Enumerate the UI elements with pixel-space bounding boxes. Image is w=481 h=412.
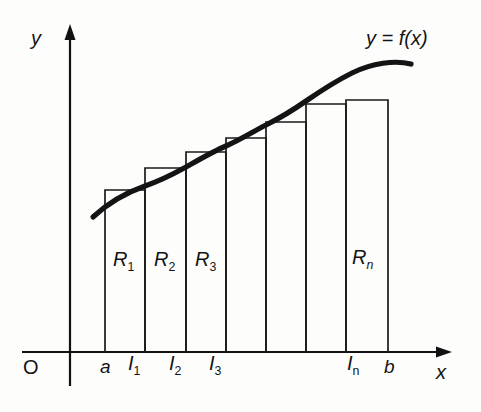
- curve-equation-label: y = f(x): [366, 28, 428, 48]
- region-label-Rn: Rn: [352, 247, 373, 271]
- interval-sub-In: n: [353, 364, 360, 378]
- riemann-rectangle-5: [266, 122, 306, 352]
- riemann-rectangle-6: [306, 104, 346, 352]
- x-axis-arrowhead: [436, 347, 452, 358]
- interval-label-I2: I2: [169, 353, 181, 377]
- upper-bound-label-b: b: [384, 357, 395, 376]
- origin-label: O: [23, 357, 39, 377]
- region-base-R1: R: [113, 248, 127, 270]
- region-base-Rn: R: [352, 246, 366, 268]
- figure-canvas: [0, 0, 481, 412]
- y-axis-arrowhead: [65, 24, 76, 40]
- y-axis-label: y: [31, 28, 41, 48]
- region-base-R3: R: [195, 248, 209, 270]
- region-base-R2: R: [154, 248, 168, 270]
- function-curve: [93, 62, 411, 217]
- riemann-rectangle-4: [226, 138, 266, 352]
- interval-sub-I3: 3: [215, 364, 222, 378]
- interval-label-I3: I3: [209, 353, 221, 377]
- region-label-R1: R1: [113, 249, 134, 273]
- interval-sub-I1: 1: [134, 364, 141, 378]
- interval-label-In: In: [347, 353, 359, 377]
- interval-label-I1: I1: [128, 353, 140, 377]
- riemann-rectangle-n: [346, 100, 388, 352]
- region-label-R3: R3: [195, 249, 216, 273]
- region-sub-R1: 1: [127, 260, 134, 274]
- lower-bound-label-a: a: [100, 357, 111, 376]
- region-sub-R2: 2: [168, 260, 175, 274]
- region-sub-Rn: n: [366, 258, 373, 272]
- interval-sub-I2: 2: [175, 364, 182, 378]
- region-sub-R3: 3: [209, 260, 216, 274]
- x-axis-label: x: [436, 362, 446, 382]
- region-label-R2: R2: [154, 249, 175, 273]
- riemann-sum-figure: y x O y = f(x) a b I1 I2 I3 In R1 R2 R3 …: [0, 0, 481, 412]
